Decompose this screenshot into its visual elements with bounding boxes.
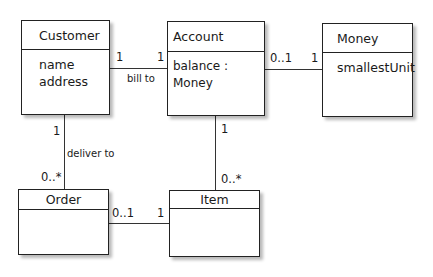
mult-order-item-from: 0..1 [112,206,134,220]
attribute-smallest-unit: smallestUnit [337,59,412,76]
assoc-customer-order-line [64,115,65,189]
class-customer-name: Customer [39,28,100,43]
mult-customer-order-to: 0..* [41,170,61,184]
class-order-header: Order [19,190,108,210]
mult-account-money-from: 0..1 [270,51,292,65]
label-bill-to: bill to [127,73,155,84]
assoc-customer-account-line [110,68,167,69]
class-order-name: Order [46,192,82,207]
mult-account-item-from: 1 [221,122,228,136]
class-account-attributes: balance : Money [168,52,264,92]
class-customer[interactable]: Customer name address [21,20,110,115]
class-money-header: Money [323,24,412,53]
mult-customer-order-from: 1 [53,124,60,138]
class-account[interactable]: Account balance : Money [167,21,265,116]
mult-customer-account-from: 1 [116,50,123,64]
class-item[interactable]: Item [169,190,260,257]
class-account-name: Account [173,29,223,44]
attribute-name: name [39,56,109,73]
label-deliver-to: deliver to [67,148,114,159]
class-money-attributes: smallestUnit [323,53,412,76]
assoc-account-money-line [265,69,322,70]
class-account-header: Account [168,22,264,52]
class-customer-attributes: name address [22,50,109,90]
class-money-name: Money [337,31,378,46]
mult-account-item-to: 0..* [221,172,241,186]
attribute-balance: balance : Money [173,58,264,92]
attribute-address: address [39,73,109,90]
mult-account-money-to: 1 [311,51,318,65]
assoc-account-item-line [215,116,216,190]
class-customer-header: Customer [22,21,109,50]
class-item-header: Item [170,191,259,209]
mult-customer-account-to: 1 [157,50,164,64]
mult-order-item-to: 1 [157,206,164,220]
class-order[interactable]: Order [18,189,109,255]
class-money[interactable]: Money smallestUnit [322,23,413,117]
class-item-name: Item [200,192,228,207]
assoc-order-item-line [109,223,169,224]
